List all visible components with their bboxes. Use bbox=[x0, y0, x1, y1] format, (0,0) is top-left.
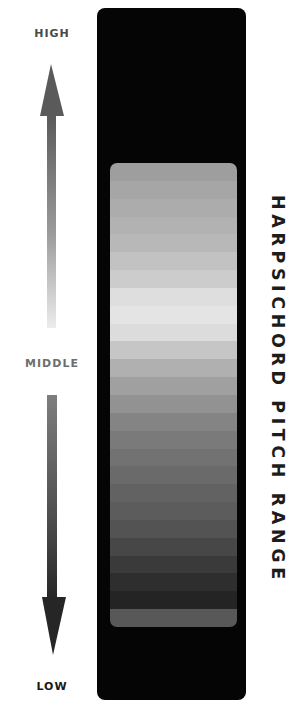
arrow-up-icon bbox=[0, 0, 100, 340]
scale-band bbox=[110, 484, 237, 502]
scale-band bbox=[110, 449, 237, 467]
scale-band bbox=[110, 199, 237, 217]
scale-band bbox=[110, 573, 237, 591]
scale-band bbox=[110, 270, 237, 288]
scale-band bbox=[110, 413, 237, 431]
scale-band bbox=[110, 520, 237, 538]
scale-band bbox=[110, 181, 237, 199]
scale-band bbox=[110, 556, 237, 574]
scale-band bbox=[110, 431, 237, 449]
scale-band bbox=[110, 538, 237, 556]
scale-band bbox=[110, 377, 237, 395]
pitch-gradient-scale bbox=[110, 163, 237, 627]
scale-band bbox=[110, 591, 237, 609]
scale-band bbox=[110, 609, 237, 627]
middle-label: MIDDLE bbox=[2, 357, 102, 370]
scale-band bbox=[110, 395, 237, 413]
scale-band bbox=[110, 306, 237, 324]
scale-band bbox=[110, 288, 237, 306]
scale-band bbox=[110, 252, 237, 270]
scale-band bbox=[110, 324, 237, 342]
scale-band bbox=[110, 359, 237, 377]
arrow-down-icon bbox=[0, 390, 100, 670]
scale-band bbox=[110, 217, 237, 235]
scale-band bbox=[110, 341, 237, 359]
scale-band bbox=[110, 466, 237, 484]
diagram-title: HARPSICHORD PITCH RANGE bbox=[258, 195, 288, 615]
scale-band bbox=[110, 163, 237, 181]
low-label: LOW bbox=[2, 680, 102, 693]
pitch-range-panel bbox=[97, 8, 246, 700]
scale-band bbox=[110, 502, 237, 520]
scale-band bbox=[110, 234, 237, 252]
